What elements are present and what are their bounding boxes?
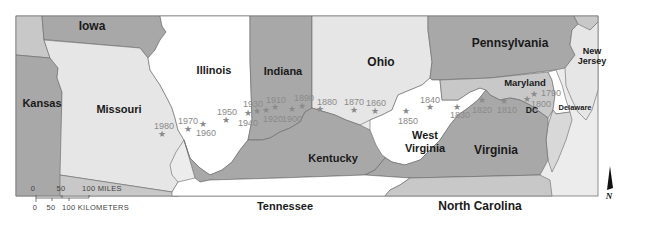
population-center-map: Iowa Kansas Missouri Illinois Indiana Oh…	[0, 0, 653, 235]
scale-km-50: 50	[47, 203, 56, 212]
label-ohio: Ohio	[367, 55, 394, 69]
year-label-1830: 1830	[450, 110, 470, 120]
label-west-virginia-line1: West	[412, 129, 438, 141]
label-kansas: Kansas	[22, 97, 61, 109]
north-label: N	[605, 191, 613, 201]
year-label-1820: 1820	[472, 105, 492, 115]
year-label-1870: 1870	[344, 97, 364, 107]
label-illinois: Illinois	[197, 64, 232, 76]
label-maryland: Maryland	[504, 77, 546, 88]
year-label-1980: 1980	[154, 121, 174, 131]
year-label-1880: 1880	[317, 97, 337, 107]
year-label-1920: 1920	[263, 114, 283, 124]
label-pennsylvania: Pennsylvania	[472, 36, 549, 50]
label-indiana: Indiana	[264, 65, 303, 77]
scale-miles-50: 50	[57, 184, 66, 193]
year-label-1900: 1900	[282, 114, 302, 124]
state-kansas	[16, 55, 62, 196]
year-label-1810: 1810	[497, 105, 517, 115]
year-label-1850: 1850	[398, 116, 418, 126]
label-north-carolina: North Carolina	[438, 199, 522, 213]
year-label-1890: 1890	[294, 93, 314, 103]
scale-miles-100: 100 MILES	[82, 184, 122, 193]
label-missouri: Missouri	[96, 103, 141, 115]
label-west-virginia-line2: Virginia	[405, 142, 446, 154]
north-arrow-icon	[607, 166, 613, 190]
year-label-1840: 1840	[420, 95, 440, 105]
label-new-jersey-line1: New	[583, 46, 603, 56]
scale-km-0: 0	[33, 203, 37, 212]
star-marker-icon: ★	[402, 106, 410, 116]
year-label-1970: 1970	[178, 116, 198, 126]
year-label-1960: 1960	[196, 128, 216, 138]
year-label-1950: 1950	[217, 107, 237, 117]
year-label-1790: 1790	[541, 88, 561, 98]
year-label-1940: 1940	[238, 118, 258, 128]
label-virginia: Virginia	[474, 143, 518, 157]
scale-km-100: 100 KILOMETERS	[62, 203, 129, 212]
state-north-carolina	[385, 175, 552, 196]
year-label-1860: 1860	[366, 98, 386, 108]
scale-miles-0: 0	[31, 184, 35, 193]
label-iowa: Iowa	[79, 19, 106, 33]
label-new-jersey-line2: Jersey	[578, 56, 607, 66]
year-label-1910: 1910	[266, 95, 286, 105]
label-tennessee: Tennessee	[257, 200, 313, 212]
star-marker-icon: ★	[478, 95, 486, 105]
star-marker-icon: ★	[288, 104, 296, 114]
label-delaware: Delaware	[559, 103, 592, 112]
star-marker-icon: ★	[530, 89, 538, 99]
star-marker-icon: ★	[244, 108, 252, 118]
year-label-1800: 1800	[531, 99, 551, 109]
label-kentucky: Kentucky	[308, 152, 358, 164]
north-arrow: N	[605, 166, 613, 201]
star-marker-icon: ★	[523, 94, 531, 104]
